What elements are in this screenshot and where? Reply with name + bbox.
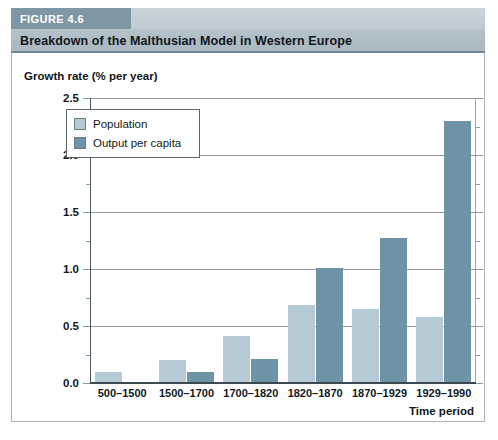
legend-label-population: Population	[93, 118, 147, 130]
figure-number-label: FIGURE 4.6	[20, 13, 84, 25]
y-tick-major	[83, 212, 90, 213]
legend-swatch-output-icon	[74, 137, 86, 149]
figure-number-badge: FIGURE 4.6	[11, 8, 131, 29]
x-axis-line	[90, 382, 476, 384]
legend-item-output-per-capita: Output per capita	[74, 135, 191, 151]
x-axis-tick-label: 1700–1820	[223, 387, 278, 399]
y-axis-tick-label: 2.5	[63, 92, 79, 104]
x-axis-title: Time period	[409, 405, 474, 417]
y-tick-major-right	[476, 269, 483, 270]
x-axis-tick-label: 1929–1990	[416, 387, 471, 399]
y-tick-minor-right	[476, 241, 480, 242]
chart-legend: Population Output per capita	[66, 109, 200, 158]
legend-swatch-population-icon	[74, 118, 86, 130]
x-axis-tick-label: 1500–1700	[159, 387, 214, 399]
bar-population	[288, 305, 315, 383]
y-tick-major-right	[476, 155, 483, 156]
y-tick-major	[83, 326, 90, 327]
bar-population	[416, 317, 443, 383]
chart-container: Growth rate (% per year) 0.00.51.01.52.0…	[11, 53, 485, 422]
figure-card: FIGURE 4.6 Breakdown of the Malthusian M…	[11, 8, 485, 424]
y-axis-tick-label: 1.5	[63, 206, 79, 218]
bar-population	[159, 360, 186, 383]
bar-output-per-capita	[444, 121, 471, 383]
y-tick-minor-right	[476, 298, 480, 299]
bar-output-per-capita	[316, 268, 343, 383]
bar-group	[412, 98, 476, 383]
y-axis-title: Growth rate (% per year)	[24, 70, 158, 82]
x-axis-tick-label: 500–1500	[98, 387, 147, 399]
bar-group	[283, 98, 347, 383]
figure-header: FIGURE 4.6 Breakdown of the Malthusian M…	[11, 8, 485, 53]
y-tick-major-right	[476, 212, 483, 213]
bar-group	[347, 98, 411, 383]
x-axis-tick-label: 1870–1929	[352, 387, 407, 399]
legend-label-output-per-capita: Output per capita	[93, 137, 181, 149]
y-tick-major	[83, 98, 90, 99]
bar-output-per-capita	[380, 238, 407, 383]
y-axis-tick-label: 0.0	[63, 377, 79, 389]
y-tick-minor-right	[476, 127, 480, 128]
bar-population	[352, 309, 379, 383]
y-tick-major	[83, 383, 90, 384]
right-axis-line	[475, 98, 476, 383]
bar-output-per-capita	[251, 359, 278, 383]
y-tick-major	[83, 269, 90, 270]
y-tick-minor-right	[476, 184, 480, 185]
y-tick-major-right	[476, 326, 483, 327]
bar-population	[223, 336, 250, 383]
y-tick-major-right	[476, 98, 483, 99]
bar-group	[219, 98, 283, 383]
y-tick-minor-right	[476, 355, 480, 356]
y-axis-tick-label: 0.5	[63, 320, 79, 332]
figure-title: Breakdown of the Malthusian Model in Wes…	[20, 30, 352, 51]
legend-item-population: Population	[74, 116, 191, 132]
x-axis-tick-label: 1820–1870	[288, 387, 343, 399]
y-axis-tick-label: 1.0	[63, 263, 79, 275]
x-axis-tick-labels: 500–15001500–17001700–18201820–18701870–…	[90, 387, 476, 405]
y-tick-major-right	[476, 383, 483, 384]
